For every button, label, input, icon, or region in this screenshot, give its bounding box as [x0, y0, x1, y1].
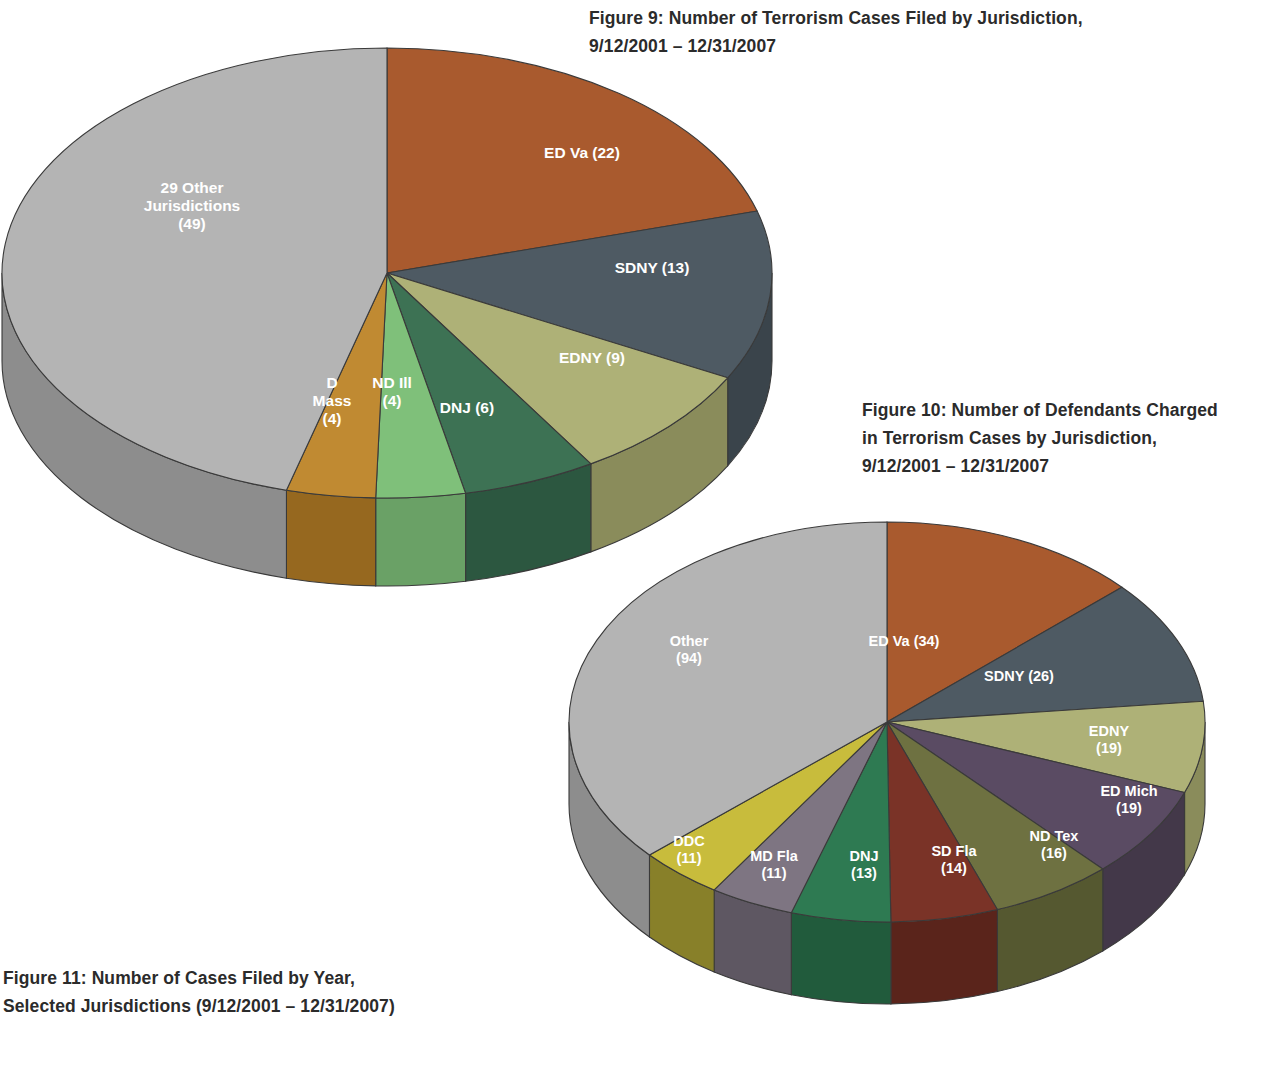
- pie-slice-side: [286, 490, 375, 586]
- figure-11-caption: Figure 11: Number of Cases Filed by Year…: [3, 964, 395, 1020]
- pie-slice-label: ED Va (34): [869, 633, 940, 649]
- pie-slice-label: DDC(11): [673, 833, 705, 866]
- figure-10-pie-svg: ED Va (34)SDNY (26)EDNY(19)ED Mich(19)ND…: [489, 496, 1273, 996]
- pie-slice-side: [891, 910, 997, 1004]
- pie-slice-label: SDNY (26): [984, 668, 1054, 684]
- figure-10-caption: Figure 10: Number of Defendants Charged …: [862, 396, 1218, 480]
- pie-slice-label: DNJ(13): [849, 848, 878, 881]
- pie-slice-label: ED Va (22): [544, 144, 620, 161]
- figure-9-pie-svg: ED Va (22)SDNY (13)EDNY (9)DNJ (6)ND Ill…: [0, 38, 772, 558]
- figure-9-pie-chart: ED Va (22)SDNY (13)EDNY (9)DNJ (6)ND Ill…: [0, 38, 772, 558]
- pie-slice-side: [791, 913, 891, 1004]
- pie-slice-label: SDNY (13): [615, 259, 690, 276]
- pie-slice-label: DNJ (6): [440, 399, 494, 416]
- pie-top-faces: [569, 522, 1205, 922]
- pie-slice-label: EDNY (9): [559, 349, 625, 366]
- pie-slice-side: [376, 493, 466, 586]
- figure-10-pie-chart: ED Va (34)SDNY (26)EDNY(19)ED Mich(19)ND…: [489, 496, 1273, 996]
